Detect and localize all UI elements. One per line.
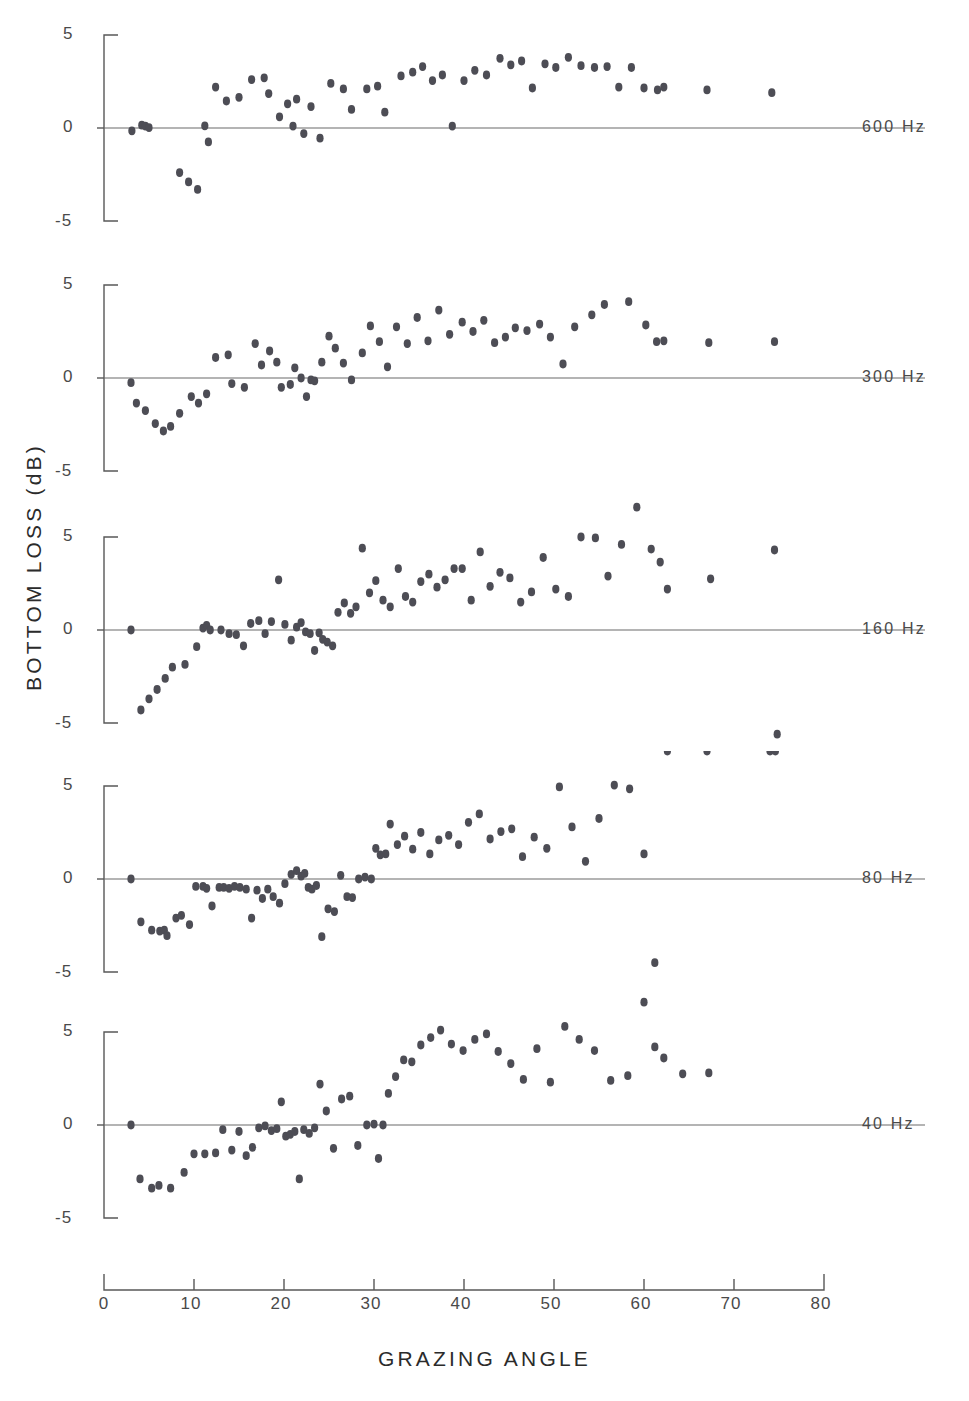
data-point (651, 1043, 658, 1052)
xtick-0: 0 (94, 1294, 114, 1314)
data-point (338, 1095, 345, 1104)
data-point (507, 60, 514, 69)
data-point (393, 322, 400, 331)
panel-label-300hz: 300 Hz (862, 368, 926, 386)
data-point (657, 558, 664, 567)
data-point (417, 1041, 424, 1050)
data-point (127, 378, 134, 387)
data-point (382, 850, 389, 859)
data-point (565, 592, 572, 601)
data-point (316, 1080, 323, 1089)
data-point (520, 1075, 527, 1084)
data-point (640, 850, 647, 859)
data-point (303, 392, 310, 401)
data-point (648, 545, 655, 554)
data-point (192, 882, 199, 891)
data-point (439, 71, 446, 80)
data-point (543, 844, 550, 853)
data-point (273, 1124, 280, 1133)
ytick-mid-2: 0 (63, 619, 73, 639)
data-point (298, 618, 305, 627)
data-point (337, 871, 344, 880)
panel-label-80hz: 80 Hz (862, 869, 915, 887)
data-point (160, 427, 167, 436)
data-point (354, 1141, 361, 1150)
data-point (414, 313, 421, 322)
data-point (469, 327, 476, 336)
data-point (127, 875, 134, 884)
data-point (152, 419, 159, 428)
data-point (480, 316, 487, 325)
data-point (247, 619, 254, 628)
data-point (536, 320, 543, 329)
data-point (136, 1175, 143, 1184)
data-point (325, 332, 332, 341)
data-point (243, 1151, 250, 1160)
data-point (255, 616, 262, 625)
data-point (607, 1076, 614, 1085)
panel-300hz: 5 0 -5 300 Hz (0, 250, 969, 500)
data-point (477, 548, 484, 557)
data-point (278, 383, 285, 392)
data-point (561, 1022, 568, 1031)
data-point (640, 998, 647, 1007)
data-point (178, 911, 185, 920)
data-point (402, 592, 409, 601)
data-point (287, 380, 294, 389)
data-point (176, 409, 183, 418)
data-point (367, 322, 374, 331)
xtick-2: 20 (266, 1294, 296, 1314)
x-axis-label: GRAZING ANGLE (0, 1347, 969, 1371)
data-point (531, 833, 538, 842)
data-point (595, 814, 602, 823)
data-point (148, 926, 155, 935)
data-point (518, 57, 525, 66)
data-point (194, 185, 201, 194)
xtick-6: 60 (626, 1294, 656, 1314)
data-point (264, 885, 271, 894)
data-point (392, 1072, 399, 1081)
ytick-top-2: 5 (63, 526, 73, 546)
data-point (270, 892, 277, 901)
data-point (460, 76, 467, 85)
data-point (145, 694, 152, 703)
data-point (243, 885, 250, 894)
data-point (249, 1143, 256, 1152)
figure-root: BOTTOM LOSS (dB) GRAZING ANGLE 5 0 -5 60… (0, 0, 969, 1401)
ytick-mid-0: 0 (63, 117, 73, 137)
data-point (651, 958, 658, 967)
data-point (417, 577, 424, 586)
data-point (291, 1127, 298, 1136)
data-point (262, 1122, 269, 1131)
data-point (265, 89, 272, 98)
xtick-7: 70 (716, 1294, 746, 1314)
data-point (347, 609, 354, 618)
ytick-top-0: 5 (63, 24, 73, 44)
data-point (660, 336, 667, 345)
data-point (487, 835, 494, 844)
data-point (359, 349, 366, 358)
data-point (167, 1184, 174, 1193)
data-point (181, 1168, 188, 1177)
data-point (483, 71, 490, 80)
data-point (276, 899, 283, 908)
data-point (212, 353, 219, 362)
data-point (349, 893, 356, 902)
data-point (219, 1125, 226, 1134)
data-point (359, 544, 366, 553)
data-point (517, 598, 524, 607)
data-point (298, 374, 305, 383)
ytick-top-4: 5 (63, 1021, 73, 1041)
data-point (176, 168, 183, 177)
data-point (408, 1057, 415, 1066)
data-point (289, 122, 296, 131)
data-point (133, 399, 140, 408)
data-point (281, 879, 288, 888)
data-point (571, 322, 578, 331)
data-point (541, 59, 548, 68)
data-point (565, 53, 572, 62)
data-point (185, 178, 192, 187)
data-point (582, 857, 589, 866)
data-point (145, 123, 152, 132)
data-point (341, 599, 348, 608)
